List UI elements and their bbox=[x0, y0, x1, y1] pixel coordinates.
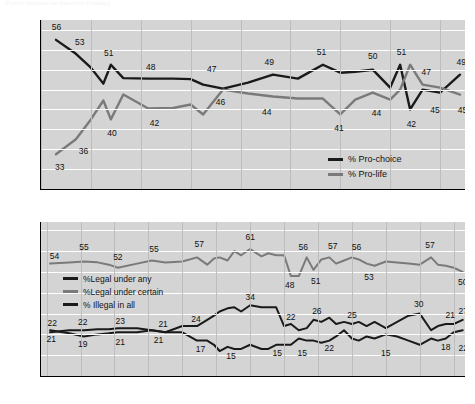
y-axis-tick-label: 20 bbox=[40, 329, 41, 339]
x-axis-tick-mark bbox=[352, 376, 353, 377]
data-point-label: 49 bbox=[264, 57, 273, 67]
data-point-label: 15 bbox=[297, 348, 306, 358]
gridline-horizontal bbox=[41, 251, 465, 252]
data-point-label: 15 bbox=[273, 348, 282, 358]
x-axis-tick-mark bbox=[290, 189, 291, 190]
legend-item[interactable]: %Legal under certain bbox=[63, 285, 163, 298]
x-axis-tick-mark bbox=[216, 376, 217, 377]
x-axis-tick-mark bbox=[114, 376, 115, 377]
gridline-horizontal bbox=[41, 30, 465, 31]
data-point-label: 46 bbox=[216, 97, 225, 107]
data-point-label: 25 bbox=[347, 310, 356, 320]
y-axis-tick-label: 10 bbox=[40, 350, 41, 360]
x-axis-tick-mark bbox=[250, 376, 251, 377]
legend-item[interactable]: %Legal under any bbox=[63, 272, 163, 285]
data-point-label: 53 bbox=[364, 272, 373, 282]
x-axis-tick-mark bbox=[454, 376, 455, 377]
legend-label: % Pro-choice bbox=[348, 154, 402, 164]
chart-pro-choice-pro-life: 2630343842465054581995199719992001200320… bbox=[0, 12, 475, 202]
x-axis-tick-mark bbox=[340, 189, 341, 190]
data-point-label: 49 bbox=[457, 57, 465, 67]
gridline-vertical bbox=[454, 222, 455, 376]
gridline-vertical bbox=[290, 20, 291, 189]
data-point-label: 55 bbox=[149, 244, 158, 254]
legend-swatch-icon bbox=[63, 290, 78, 293]
x-axis-tick-mark bbox=[241, 189, 242, 190]
gridline-vertical bbox=[182, 222, 183, 376]
data-point-label: 50 bbox=[368, 51, 377, 61]
data-point-label: 24 bbox=[191, 314, 200, 324]
data-point-label: 15 bbox=[226, 351, 235, 361]
x-axis-tick-mark bbox=[284, 376, 285, 377]
data-point-label: 55 bbox=[79, 242, 88, 252]
data-point-label: 15 bbox=[381, 348, 390, 358]
gridline-vertical bbox=[241, 20, 242, 189]
data-point-label: 22 bbox=[459, 343, 465, 353]
x-axis-tick-mark bbox=[191, 189, 192, 190]
data-point-label: 48 bbox=[146, 62, 155, 72]
legend-label: %Legal under certain bbox=[83, 287, 163, 297]
data-point-label: 21 bbox=[154, 335, 163, 345]
x-axis-tick-mark bbox=[182, 376, 183, 377]
x-axis-tick-mark bbox=[41, 189, 42, 190]
gridline-horizontal bbox=[41, 314, 465, 315]
data-point-label: 51 bbox=[317, 47, 326, 57]
legend-item[interactable]: % Pro-life bbox=[328, 167, 402, 181]
y-axis-tick-label: 70 bbox=[40, 225, 41, 235]
data-point-label: 21 bbox=[446, 310, 455, 320]
chart-legality-of-abortion: 0102030405060701975197819811984198719901… bbox=[0, 218, 475, 404]
data-point-label: 22 bbox=[78, 317, 87, 327]
x-axis-tick-mark bbox=[318, 376, 319, 377]
data-point-label: 27 bbox=[459, 306, 465, 316]
data-point-label: 26 bbox=[312, 306, 321, 316]
x-axis-tick-mark bbox=[141, 189, 142, 190]
data-point-label: 47 bbox=[422, 67, 431, 77]
data-point-label: 22 bbox=[325, 343, 334, 353]
gridline-vertical bbox=[47, 222, 48, 376]
data-point-label: 21 bbox=[46, 334, 55, 344]
data-point-label: 22 bbox=[286, 312, 295, 322]
data-point-label: 17 bbox=[196, 344, 205, 354]
legend-swatch-icon bbox=[328, 158, 343, 161]
gridline-horizontal bbox=[41, 70, 465, 71]
legend-chart-1: % Pro-choice% Pro-life bbox=[328, 152, 402, 182]
y-axis-tick-label: 50 bbox=[40, 267, 41, 277]
data-point-label: 42 bbox=[150, 118, 159, 128]
data-point-label: 57 bbox=[328, 241, 337, 251]
data-point-label: 47 bbox=[207, 64, 216, 74]
data-point-label: 18 bbox=[441, 342, 450, 352]
legend-label: % Pro-life bbox=[348, 169, 387, 179]
gridline-horizontal bbox=[41, 189, 465, 190]
data-point-label: 33 bbox=[55, 162, 64, 172]
gridline-horizontal bbox=[41, 149, 465, 150]
data-point-label: 30 bbox=[414, 299, 423, 309]
gridline-vertical bbox=[216, 222, 217, 376]
data-point-label: 45 bbox=[430, 105, 439, 115]
y-axis-tick-label: 30 bbox=[40, 309, 41, 319]
data-point-label: 22 bbox=[48, 318, 57, 328]
data-point-label: 52 bbox=[113, 252, 122, 262]
legend-swatch-icon bbox=[63, 277, 78, 280]
faint-header-text: Public Opinion on Abortion (Gallup) bbox=[6, 0, 306, 9]
data-point-label: 40 bbox=[107, 128, 116, 138]
data-point-label: 45 bbox=[458, 105, 465, 115]
legend-label: % Illegal in all bbox=[83, 300, 135, 310]
y-axis-tick-label: 0 bbox=[40, 371, 41, 377]
gridline-horizontal bbox=[41, 129, 465, 130]
gridline-horizontal bbox=[41, 355, 465, 356]
legend-item[interactable]: % Pro-choice bbox=[328, 152, 402, 166]
gridline-vertical bbox=[191, 20, 192, 189]
data-point-label: 56 bbox=[299, 242, 308, 252]
data-point-label: 21 bbox=[115, 337, 124, 347]
gridline-horizontal bbox=[41, 90, 465, 91]
chart-page: Public Opinion on Abortion (Gallup) 2630… bbox=[0, 0, 475, 404]
gridline-horizontal bbox=[41, 109, 465, 110]
data-point-label: 23 bbox=[115, 316, 124, 326]
y-axis-tick-label: 60 bbox=[40, 246, 41, 256]
gridline-vertical bbox=[318, 222, 319, 376]
x-axis-tick-mark bbox=[148, 376, 149, 377]
data-point-label: 51 bbox=[397, 47, 406, 57]
legend-item[interactable]: % Illegal in all bbox=[63, 298, 163, 311]
gridline-vertical bbox=[440, 20, 441, 189]
data-point-label: 54 bbox=[50, 251, 59, 261]
